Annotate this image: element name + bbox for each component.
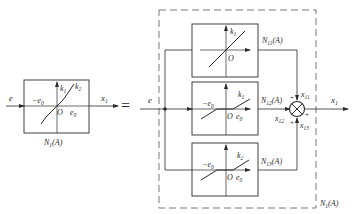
outer-label-n1: N1(A) [319, 199, 339, 209]
summing-junction: x11 + x12 x13 + + x1 [274, 50, 348, 170]
svg-text:−e0: −e0 [202, 99, 214, 109]
svg-text:O: O [227, 173, 233, 182]
n12-label: N12(A) [260, 96, 282, 106]
svg-text:x12: x12 [274, 114, 284, 124]
decomposition-input: e [140, 50, 192, 170]
svg-text:k1: k1 [238, 90, 245, 100]
left-block-label: N1(A) [43, 138, 63, 148]
n11-label: N11(A) [261, 36, 283, 46]
svg-text:−e0: −e0 [202, 160, 214, 170]
left-characteristic-curve [41, 84, 74, 124]
left-origin-label: O [57, 108, 63, 117]
left-k1-label: k1 [60, 84, 67, 94]
branch-upper-wire [165, 50, 192, 109]
svg-text:x13: x13 [299, 121, 309, 131]
block-diagram: e k1 k2 −e0 O e0 x1 N1(A) = N1(A) e k1 O [0, 0, 355, 214]
svg-text:O: O [227, 112, 233, 121]
svg-text:k1: k1 [230, 27, 237, 37]
svg-text:+: + [290, 94, 294, 102]
left-input-label: e [9, 93, 13, 103]
block-n11: k1 O N11(A) [192, 24, 297, 77]
block-n12: k1 −e0 O e0 N12(A) [192, 82, 290, 135]
left-k2-label: k2 [75, 82, 82, 92]
block-n13: k2 −e0 O e0 N13(A) [192, 143, 297, 196]
left-block-n1: e k1 k2 −e0 O e0 x1 N1(A) [6, 80, 118, 148]
svg-text:x11: x11 [300, 90, 310, 100]
svg-text:k2: k2 [237, 151, 244, 161]
equals-sign: = [121, 97, 130, 114]
svg-text:+: + [290, 119, 294, 127]
right-input-label: e [148, 95, 152, 105]
svg-text:O: O [228, 54, 234, 63]
svg-text:e0: e0 [236, 173, 243, 183]
n11-linear-curve [209, 31, 245, 67]
svg-text:+: + [305, 111, 309, 119]
n13-label: N13(A) [260, 157, 282, 167]
right-output-label: x1 [330, 95, 338, 106]
left-e0-label: e0 [70, 108, 77, 118]
left-output-label: x1 [100, 93, 108, 104]
branch-lower-wire [165, 109, 192, 170]
svg-text:e0: e0 [236, 112, 243, 122]
left-neg-e0-label: −e0 [32, 96, 44, 106]
